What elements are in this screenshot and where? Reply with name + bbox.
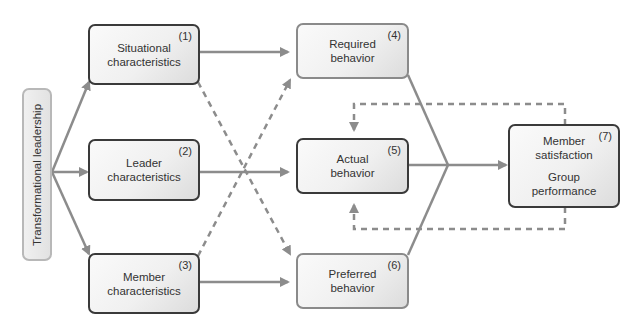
node-label: behavior [330, 51, 374, 65]
node-preferred-behavior: (6) Preferred behavior [296, 253, 409, 309]
node-label: Required [329, 37, 376, 51]
node-member-characteristics: (3) Member characteristics [88, 253, 200, 314]
node-number: (2) [179, 144, 192, 158]
node-number: (7) [599, 129, 612, 143]
node-label: Situational [117, 41, 171, 55]
node-actual-behavior: (5) Actual behavior [296, 138, 409, 194]
node-label: Leader [126, 156, 162, 170]
node-label: performance [532, 184, 597, 198]
node-label: Group [548, 170, 580, 184]
node-label: Preferred [329, 267, 377, 281]
node-label: characteristics [107, 284, 181, 298]
node-label: Actual [337, 152, 369, 166]
node-label: Member [123, 270, 165, 284]
node-label: behavior [330, 166, 374, 180]
node-label: characteristics [107, 170, 181, 184]
node-required-behavior: (4) Required behavior [296, 23, 409, 79]
node-label: behavior [330, 281, 374, 295]
node-number: (6) [388, 258, 401, 272]
node-number: (1) [179, 29, 192, 43]
transformational-leadership-box: Transformational leadership [22, 88, 52, 261]
node-situational-characteristics: (1) Situational characteristics [88, 24, 200, 85]
node-member-satisfaction-group-performance: (7) Member satisfaction Group performanc… [508, 124, 620, 208]
node-number: (4) [388, 28, 401, 42]
transformational-leadership-label: Transformational leadership [31, 103, 43, 245]
node-label: Member [543, 134, 585, 148]
node-label: characteristics [107, 55, 181, 69]
node-number: (5) [388, 143, 401, 157]
node-label: satisfaction [535, 148, 593, 162]
node-leader-characteristics: (2) Leader characteristics [88, 139, 200, 201]
node-number: (3) [179, 258, 192, 272]
